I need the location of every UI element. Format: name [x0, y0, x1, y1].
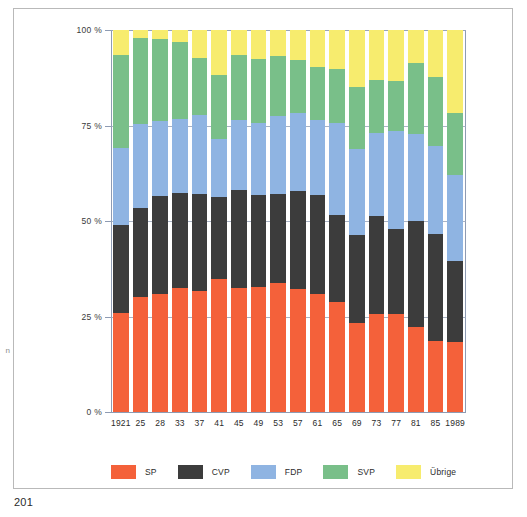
stacked-bar[interactable]	[428, 30, 444, 412]
y-tick-mark	[105, 30, 111, 31]
legend-label: SP	[145, 467, 157, 477]
legend-item-cvp[interactable]: CVP	[178, 465, 230, 479]
bar-segment-svp	[251, 59, 267, 122]
bar-segment-cvp	[329, 215, 345, 302]
bar-segment-sp	[388, 314, 404, 412]
legend-swatch-icon	[251, 465, 276, 479]
bar-segment-cvp	[349, 235, 365, 322]
bar-segment-sp	[192, 291, 208, 412]
stacked-bar[interactable]	[251, 30, 267, 412]
stacked-bar[interactable]	[408, 30, 424, 412]
legend-item-svp[interactable]: SVP	[323, 465, 375, 479]
x-axis-tick-label: 1989	[439, 418, 471, 428]
bar-segment-fdp	[290, 113, 306, 191]
bar-segment-übrige	[369, 30, 385, 80]
bar-segment-cvp	[388, 229, 404, 314]
stacked-bar[interactable]	[211, 30, 227, 412]
bar-segment-sp	[270, 283, 286, 412]
stacked-bar[interactable]	[310, 30, 326, 412]
bar-segment-svp	[349, 87, 365, 150]
bar-segment-svp	[369, 80, 385, 133]
bar-segment-fdp	[428, 146, 444, 234]
legend-swatch-icon	[323, 465, 348, 479]
stacked-bar[interactable]	[172, 30, 188, 412]
y-axis-tick-label: 50 %	[81, 217, 102, 226]
plot-area: 0 %25 %50 %75 %100 % 1921252833374145495…	[111, 30, 465, 412]
bar-segment-übrige	[172, 30, 188, 42]
stacked-bar[interactable]	[349, 30, 365, 412]
bar-segment-sp	[113, 313, 129, 412]
bar-segment-cvp	[310, 195, 326, 294]
legend-label: FDP	[285, 467, 303, 477]
bar-segment-svp	[329, 69, 345, 123]
bar-segment-sp	[329, 302, 345, 412]
legend-item-übrige[interactable]: Übrige	[396, 465, 456, 479]
y-tick-mark	[105, 412, 111, 413]
y-tick-mark	[105, 126, 111, 127]
bar-segment-svp	[270, 56, 286, 115]
y-axis-tick-label: 0 %	[86, 408, 102, 417]
stacked-bar[interactable]	[231, 30, 247, 412]
bar-segment-cvp	[428, 234, 444, 341]
bar-segment-cvp	[172, 193, 188, 289]
legend-item-fdp[interactable]: FDP	[251, 465, 303, 479]
bar-segment-svp	[211, 75, 227, 138]
stacked-bar[interactable]	[192, 30, 208, 412]
stacked-bar[interactable]	[329, 30, 345, 412]
y-tick-mark	[105, 317, 111, 318]
margin-glyph: n	[0, 346, 10, 356]
stacked-bar[interactable]	[113, 30, 129, 412]
bar-segment-sp	[172, 288, 188, 412]
bar-segment-svp	[388, 81, 404, 131]
stacked-bar[interactable]	[388, 30, 404, 412]
bar-segment-fdp	[447, 175, 463, 261]
stacked-bar[interactable]	[133, 30, 149, 412]
bar-segment-sp	[369, 314, 385, 412]
bar-segment-svp	[152, 39, 168, 121]
bar-segment-fdp	[192, 115, 208, 194]
bar-segment-svp	[133, 38, 149, 124]
y-axis-tick-label: 25 %	[81, 313, 102, 322]
bar-segment-fdp	[408, 134, 424, 221]
stacked-bar[interactable]	[152, 30, 168, 412]
bar-segment-svp	[408, 63, 424, 134]
bar-segment-cvp	[369, 216, 385, 313]
bar-segment-cvp	[251, 195, 267, 286]
bar-segment-cvp	[113, 225, 129, 314]
legend-item-sp[interactable]: SP	[111, 465, 157, 479]
bar-segment-übrige	[133, 30, 149, 38]
bar-segment-sp	[408, 327, 424, 412]
bar-segment-cvp	[192, 194, 208, 291]
stacked-bar[interactable]	[290, 30, 306, 412]
legend-swatch-icon	[396, 465, 421, 479]
bar-segment-fdp	[388, 131, 404, 230]
bar-segment-fdp	[329, 123, 345, 215]
stacked-bar[interactable]	[270, 30, 286, 412]
bar-segment-sp	[251, 287, 267, 412]
bar-segment-fdp	[251, 123, 267, 196]
bar-segment-svp	[290, 60, 306, 112]
bar-segment-sp	[428, 341, 444, 412]
bar-segment-fdp	[310, 120, 326, 194]
figure-frame: 0 %25 %50 %75 %100 % 1921252833374145495…	[13, 8, 513, 489]
bar-segment-übrige	[447, 30, 463, 113]
y-axis-tick-label: 100 %	[76, 26, 102, 35]
bar-segment-cvp	[408, 221, 424, 326]
legend-swatch-icon	[111, 465, 136, 479]
bar-segment-übrige	[152, 30, 168, 39]
bar-segment-fdp	[113, 148, 129, 224]
bar-segment-cvp	[231, 190, 247, 288]
chart-legend: SPCVPFDPSVPÜbrige	[111, 461, 491, 483]
bar-segment-cvp	[211, 197, 227, 278]
bar-segment-svp	[447, 113, 463, 175]
bar-segment-sp	[447, 342, 463, 412]
bar-segment-übrige	[349, 30, 365, 87]
page-folio: 201	[14, 496, 33, 509]
stacked-bar[interactable]	[447, 30, 463, 412]
x-axis-line	[111, 412, 466, 413]
bar-segment-svp	[192, 58, 208, 116]
bar-segment-übrige	[428, 30, 444, 77]
bar-segment-übrige	[290, 30, 306, 60]
bar-segment-übrige	[211, 30, 227, 75]
stacked-bar[interactable]	[369, 30, 385, 412]
